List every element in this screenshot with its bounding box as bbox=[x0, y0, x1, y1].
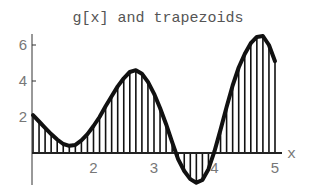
x-tick-label: 2 bbox=[89, 159, 97, 176]
x-tick-label: 3 bbox=[150, 159, 158, 176]
y-axis-ticks: 246 bbox=[19, 36, 36, 125]
chart-title: g[x] and trapezoids bbox=[72, 10, 243, 27]
x-axis-label: x bbox=[287, 146, 296, 163]
y-tick-label: 2 bbox=[19, 108, 27, 125]
y-tick-label: 4 bbox=[19, 72, 27, 89]
chart: g[x] and trapezoids 246 2345 x bbox=[0, 0, 317, 194]
x-tick-label: 5 bbox=[271, 159, 279, 176]
y-tick-label: 6 bbox=[19, 36, 27, 53]
